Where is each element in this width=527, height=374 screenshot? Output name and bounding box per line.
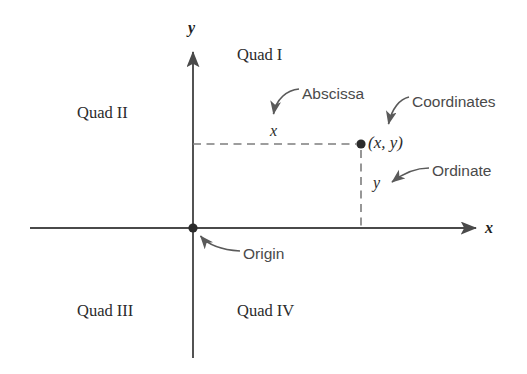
coordinate-plane-figure: y x Quad I Quad II Quad III Quad IV Absc… <box>0 0 527 374</box>
quadrant-label-iii: Quad III <box>77 303 133 320</box>
ordinate-variable-label: y <box>373 175 380 191</box>
abscissa-callout-label: Abscissa <box>302 86 364 102</box>
abscissa-callout-arrow <box>274 89 300 114</box>
quadrant-label-iv: Quad IV <box>237 303 294 320</box>
ordinate-callout-label: Ordinate <box>432 163 491 179</box>
origin-callout-arrow <box>201 236 241 251</box>
quadrant-label-i: Quad I <box>237 47 282 64</box>
origin-callout-label: Origin <box>243 246 284 262</box>
quadrant-label-ii: Quad II <box>77 105 128 122</box>
coordinates-callout-arrow <box>389 97 410 124</box>
abscissa-variable-label: x <box>270 123 277 139</box>
y-axis-label: y <box>188 20 195 36</box>
coordinates-callout-label: Coordinates <box>412 94 496 110</box>
plotted-point-dot <box>356 139 365 148</box>
x-axis-label: x <box>485 220 493 236</box>
point-coordinates-label: (x, y) <box>368 134 403 151</box>
origin-dot <box>188 223 197 232</box>
ordinate-callout-arrow <box>392 168 429 182</box>
